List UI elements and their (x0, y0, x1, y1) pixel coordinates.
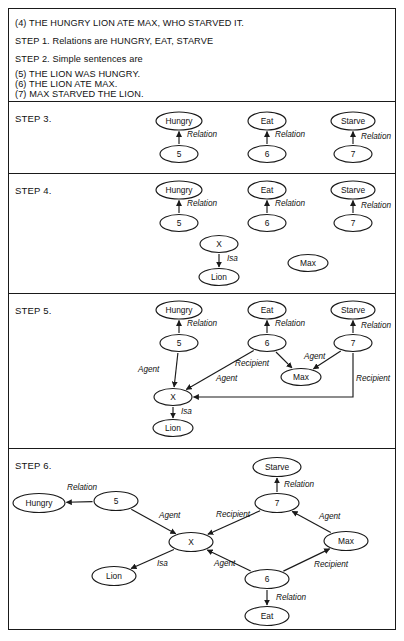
node-n6: 6 (248, 215, 286, 232)
node-label: Lion (106, 571, 122, 581)
node-lion: Lion (153, 420, 193, 437)
node-n6: 6 (248, 146, 286, 163)
node-label: 5 (177, 218, 182, 228)
edge-label-agent: Agent (318, 512, 341, 521)
edge-n5-to-hungry: Relation (179, 319, 217, 333)
graph-step-3: RelationRelationRelationHungryEatStarve5… (156, 112, 391, 163)
node-n6: 6 (245, 570, 289, 589)
edge-n6-to-eat: Relation (267, 319, 305, 333)
edge-n7-to-starve: Relation (277, 478, 314, 492)
edge-n7-to-x: Recipient (208, 510, 260, 534)
node-eat: Eat (248, 112, 286, 130)
node-label: 7 (351, 338, 356, 348)
edge-label-agent: Agent (213, 559, 236, 568)
edge-label-agent: Agent (215, 374, 238, 383)
semantic-network-graphs: RelationRelationRelationHungryEatStarve5… (9, 9, 397, 631)
edge-label-relation: Relation (275, 199, 305, 208)
edge-x-to-lion: Isa (173, 407, 192, 418)
edge-label-relation: Relation (276, 593, 306, 602)
edge-label-relation: Relation (275, 319, 305, 328)
figure-frame: (4) THE HUNGRY LION ATE MAX, WHO STARVED… (8, 8, 396, 630)
node-n6: 6 (248, 335, 286, 352)
graph-step-5: RelationRelationRelationAgentAgentRecipi… (137, 301, 391, 437)
edge-label-isa: Isa (181, 407, 192, 416)
edge-n6-to-max: Recipient (235, 352, 292, 368)
node-label: Eat (261, 185, 274, 195)
node-label: Starve (265, 462, 290, 472)
node-label: Starve (341, 305, 366, 315)
node-starve: Starve (331, 301, 375, 319)
node-label: Eat (261, 116, 274, 126)
node-hungry: Hungry (156, 301, 202, 319)
edge-label-recipient: Recipient (314, 560, 349, 569)
node-x: X (200, 236, 238, 253)
node-label: Hungry (166, 185, 194, 195)
node-starve: Starve (331, 112, 375, 130)
edge-label-relation: Relation (361, 201, 391, 210)
node-starve: Starve (253, 458, 301, 477)
graph-step-6: RelationAgentRelationRecipientAgentRecip… (13, 458, 368, 626)
node-label: 7 (275, 498, 280, 508)
edge-n6-to-eat: Relation (267, 130, 305, 144)
node-label: Starve (341, 116, 366, 126)
node-n7: 7 (334, 215, 372, 232)
node-n5: 5 (94, 492, 138, 511)
node-label: 5 (177, 338, 182, 348)
edge-max-to-n7: Agent (292, 511, 341, 532)
node-label: Lion (165, 423, 181, 433)
edge-label-agent: Agent (158, 511, 181, 520)
node-label: 7 (351, 149, 356, 159)
node-x: X (169, 533, 213, 552)
node-label: X (188, 537, 194, 547)
node-eat: Eat (248, 181, 286, 199)
node-hungry: Hungry (156, 181, 202, 199)
edge-x-to-lion: Isa (131, 550, 174, 569)
node-starve: Starve (331, 181, 375, 199)
node-lion: Lion (199, 269, 239, 286)
node-label: Hungry (26, 498, 54, 508)
node-label: Lion (211, 272, 227, 282)
node-x: X (154, 389, 192, 406)
node-label: 6 (265, 149, 270, 159)
node-n7: 7 (334, 335, 372, 352)
node-label: Starve (341, 185, 366, 195)
node-label: Max (338, 536, 355, 546)
edge-label-isa: Isa (157, 559, 168, 568)
node-max: Max (288, 255, 328, 272)
node-label: 6 (265, 338, 270, 348)
edge-label-relation: Relation (284, 480, 314, 489)
edge-n6-to-x: Agent (207, 550, 250, 571)
node-label: Eat (261, 611, 274, 621)
node-label: Max (293, 372, 310, 382)
node-label: 6 (265, 574, 270, 584)
node-label: Hungry (166, 116, 194, 126)
node-lion: Lion (92, 567, 136, 586)
node-label: 6 (265, 218, 270, 228)
edge-label-agent: Agent (303, 352, 326, 361)
node-n7: 7 (334, 146, 372, 163)
node-label: Hungry (166, 305, 194, 315)
edge-n6-to-eat: Relation (267, 590, 306, 605)
edge-n5-to-hungry: Relation (66, 483, 97, 502)
node-n5: 5 (160, 215, 198, 232)
node-hungry: Hungry (13, 494, 65, 513)
node-n5: 5 (160, 335, 198, 352)
edge-n7-to-starve: Relation (353, 132, 391, 145)
node-label: 5 (177, 149, 182, 159)
edge-label-relation: Relation (275, 130, 305, 139)
edge-n7-to-starve: Relation (353, 321, 391, 334)
edge-n5-to-hungry: Relation (179, 199, 217, 213)
edge-n6-to-x: Agent (186, 351, 253, 390)
node-max: Max (281, 369, 321, 386)
graph-step-4: RelationRelationRelationIsaHungryEatStar… (156, 181, 391, 286)
node-n7: 7 (255, 494, 299, 513)
node-n5: 5 (160, 146, 198, 163)
edge-x-to-lion: Isa (219, 254, 238, 267)
node-label: X (216, 239, 222, 249)
edge-label-relation: Relation (187, 319, 217, 328)
edge-n5-to-x: Agent (131, 509, 181, 533)
edge-label-recipient: Recipient (216, 510, 251, 519)
edge-label-isa: Isa (227, 254, 238, 263)
edge-n6-to-max: Recipient (283, 549, 348, 571)
edge-label-relation: Relation (67, 483, 97, 492)
